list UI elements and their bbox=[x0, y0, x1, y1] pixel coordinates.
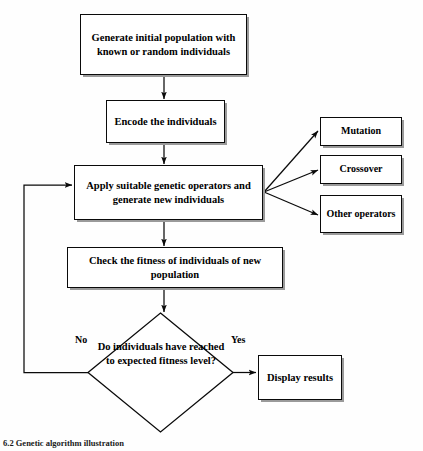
node-label: Generate initial population with known o… bbox=[81, 31, 246, 58]
node-check-fitness: Check the fitness of individuals of new … bbox=[67, 247, 283, 288]
node-label: Mutation bbox=[337, 125, 385, 138]
node-other-operators: Other operators bbox=[320, 195, 402, 233]
edge-label-yes: Yes bbox=[231, 334, 245, 345]
decision-label: Do individuals have reached to expected … bbox=[96, 340, 226, 367]
figure-caption: 6.2 Genetic algorithm illustration bbox=[3, 438, 124, 448]
node-display-results: Display results bbox=[258, 355, 342, 400]
node-generate-initial-population: Generate initial population with known o… bbox=[80, 14, 247, 75]
node-apply-genetic-operators: Apply suitable genetic operators and gen… bbox=[74, 165, 263, 220]
edge-label-no: No bbox=[75, 334, 87, 345]
node-label: Check the fitness of individuals of new … bbox=[68, 254, 282, 281]
decision-diamond bbox=[88, 313, 233, 432]
node-label: Apply suitable genetic operators and gen… bbox=[75, 179, 262, 206]
node-label: Crossover bbox=[335, 163, 386, 176]
edge-apply-mutation bbox=[264, 131, 318, 192]
node-label: Display results bbox=[263, 371, 337, 384]
flowchart-figure: Generate initial population with known o… bbox=[0, 0, 423, 451]
edge-apply-crossover bbox=[264, 170, 318, 192]
node-crossover: Crossover bbox=[320, 155, 402, 184]
node-encode-individuals: Encode the individuals bbox=[106, 100, 225, 143]
node-mutation: Mutation bbox=[320, 117, 402, 146]
node-label: Other operators bbox=[323, 208, 400, 221]
edge-apply-other bbox=[264, 192, 318, 215]
node-label: Encode the individuals bbox=[110, 115, 220, 128]
